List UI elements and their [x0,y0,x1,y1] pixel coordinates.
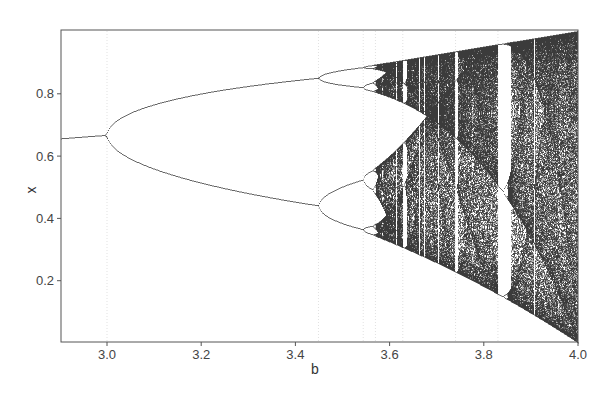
y-axis-ticks: 0.20.40.60.8 [36,86,61,288]
bifurcation-chart: 3.03.23.43.63.84.0 0.20.40.60.8 b x [0,0,612,399]
x-axis-ticks: 3.03.23.43.63.84.0 [98,342,587,362]
attractor-scatter [61,32,579,344]
x-axis-label: b [311,361,319,377]
y-axis-label: x [23,187,39,194]
x-tick-label: 3.8 [475,347,493,362]
x-tick-label: 3.6 [381,347,399,362]
x-tick-label: 4.0 [569,347,587,362]
y-tick-label: 0.4 [36,211,54,226]
x-tick-label: 3.0 [98,347,116,362]
y-tick-label: 0.8 [36,86,54,101]
attractor-points [61,32,579,344]
y-tick-label: 0.2 [36,273,54,288]
x-tick-label: 3.2 [192,347,210,362]
x-tick-label: 3.4 [286,347,304,362]
y-tick-label: 0.6 [36,149,54,164]
